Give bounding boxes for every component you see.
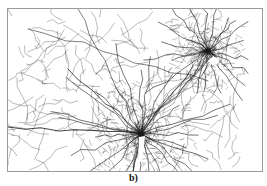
road-map-frame [7,8,263,172]
road-network-map [8,9,263,172]
figure-caption: b) [0,172,267,184]
